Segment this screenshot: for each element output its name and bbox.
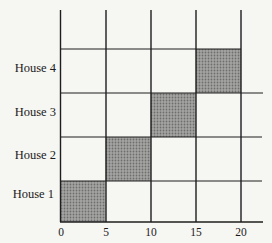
x-tick-20: 20 (235, 226, 247, 238)
x-tick-10: 10 (145, 226, 157, 238)
x-tick-0: 0 (58, 226, 64, 238)
gantt-chart: House 4 House 3 House 2 House 1 0 5 10 1… (0, 0, 272, 243)
x-tick-15: 15 (190, 226, 202, 238)
x-tick-5: 5 (103, 226, 109, 238)
task-bar-house-1 (61, 181, 106, 222)
task-bar-house-2 (106, 137, 151, 181)
chart-plot-area (0, 0, 272, 243)
task-bar-house-3 (151, 93, 196, 137)
task-bar-house-4 (196, 49, 241, 93)
y-label-house-1: House 1 (0, 187, 54, 201)
y-label-house-3: House 3 (0, 105, 56, 119)
y-label-house-4: House 4 (0, 61, 56, 75)
y-label-house-2: House 2 (0, 148, 56, 162)
